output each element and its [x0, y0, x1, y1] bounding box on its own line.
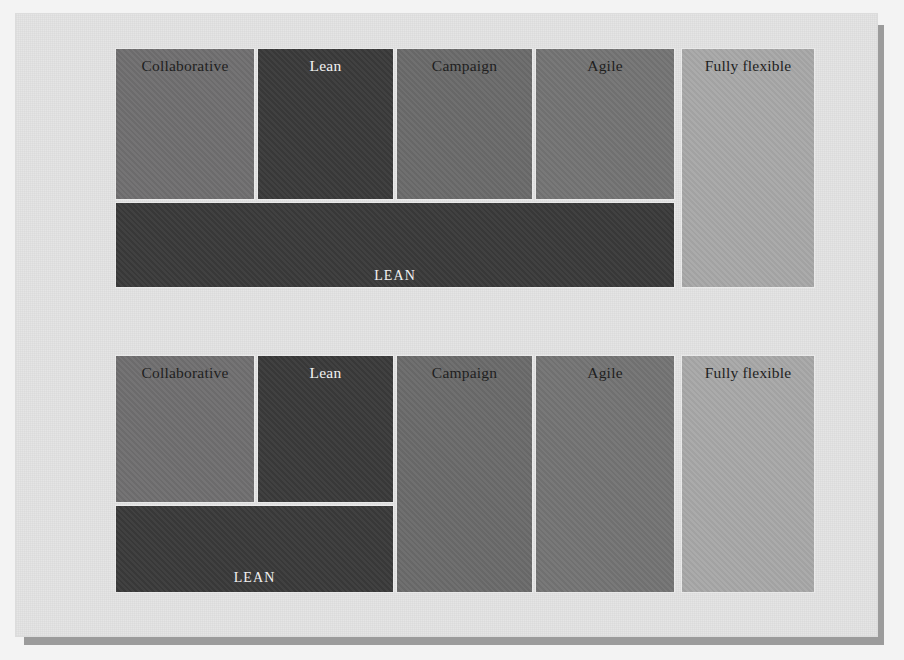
bottom-layout-label-collaborative: Collaborative	[116, 363, 254, 382]
bottom-layout-label-lean-band: LEAN	[116, 568, 393, 587]
bottom-layout-cell-fully-flexible: Fully flexible	[681, 355, 815, 593]
cell-texture	[536, 356, 674, 592]
bottom-layout-cell-collaborative: Collaborative	[115, 355, 255, 503]
bottom-layout-cell-campaign: Campaign	[396, 355, 533, 593]
scanned-page: CollaborativeLeanCampaignAgileFully flex…	[0, 0, 904, 660]
bottom-layout-cell-lean-band: LEAN	[115, 505, 394, 593]
bottom-layout-cell-agile: Agile	[535, 355, 675, 593]
bottom-layout-label-campaign: Campaign	[397, 363, 532, 382]
bottom-layout: CollaborativeLeanCampaignAgileFully flex…	[0, 0, 904, 660]
bottom-layout-label-fully-flexible: Fully flexible	[682, 363, 814, 382]
bottom-layout-cell-lean: Lean	[257, 355, 394, 503]
cell-texture	[682, 356, 814, 592]
cell-texture	[397, 356, 532, 592]
bottom-layout-label-lean: Lean	[258, 363, 393, 382]
bottom-layout-label-agile: Agile	[536, 363, 674, 382]
